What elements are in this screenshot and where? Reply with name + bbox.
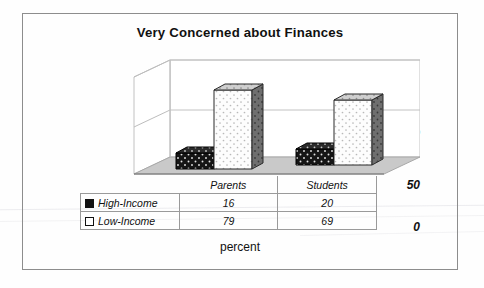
legend-swatch-light-icon [85, 217, 94, 226]
table-row: High-Income 16 20 [81, 194, 377, 212]
legend-item-high-income: High-Income [81, 194, 180, 212]
chart-title: Very Concerned about Finances [22, 25, 458, 40]
figure-canvas: Very Concerned about Finances 100 50 0 [0, 0, 484, 288]
legend-item-low-income: Low-Income [81, 212, 180, 230]
legend-label-high-income: High-Income [98, 197, 158, 209]
legend-swatch-dark-icon [85, 199, 94, 208]
table-corner-cell [81, 176, 180, 194]
cell-low-income-students: 69 [278, 212, 377, 230]
column-header-parents: Parents [179, 176, 278, 194]
chart-left-wall [134, 60, 170, 174]
chart-3d-svg [120, 58, 420, 183]
cell-high-income-students: 20 [278, 194, 377, 212]
bar-parents-low-income [214, 84, 263, 169]
axis-caption: percent [22, 240, 458, 254]
column-header-students: Students [278, 176, 377, 194]
bar-students-low-income [334, 94, 383, 165]
table-row: Low-Income 79 69 [81, 212, 377, 230]
plot-area: 100 50 0 [120, 58, 420, 176]
legend-label-low-income: Low-Income [98, 215, 155, 227]
y-axis-tick-0: 0 [380, 221, 420, 233]
data-table: Parents Students High-Income 16 20 Low-I… [80, 176, 377, 230]
cell-low-income-parents: 79 [179, 212, 278, 230]
cell-high-income-parents: 16 [179, 194, 278, 212]
table-header-row: Parents Students [81, 176, 377, 194]
